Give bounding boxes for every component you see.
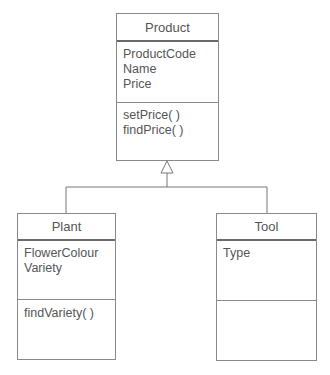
class-name: Plant (18, 214, 115, 241)
class-name-label: Plant (52, 219, 82, 234)
attributes-section: Type (217, 241, 316, 301)
class-name-label: Tool (255, 219, 279, 234)
class-name: Tool (217, 214, 316, 241)
attribute: ProductCode (123, 47, 212, 62)
class-product: Product ProductCode Name Price setPrice(… (116, 13, 219, 161)
attribute: Type (223, 246, 310, 261)
method: findVariety( ) (24, 306, 109, 321)
class-plant: Plant FlowerColour Variety findVariety( … (17, 213, 116, 360)
class-name-label: Product (145, 20, 190, 35)
attribute: Variety (24, 261, 109, 276)
methods-section: findVariety( ) (18, 300, 115, 324)
class-name: Product (117, 14, 218, 42)
method: setPrice( ) (123, 108, 212, 123)
attribute: FlowerColour (24, 246, 109, 261)
attribute: Name (123, 62, 212, 77)
methods-section: setPrice( ) findPrice( ) (117, 103, 218, 141)
class-tool: Tool Type (216, 213, 317, 361)
attributes-section: ProductCode Name Price (117, 42, 218, 103)
attribute: Price (123, 77, 212, 92)
methods-section (217, 301, 316, 307)
method: findPrice( ) (123, 123, 212, 138)
generalization-arrow-icon (161, 161, 173, 173)
attributes-section: FlowerColour Variety (18, 241, 115, 300)
